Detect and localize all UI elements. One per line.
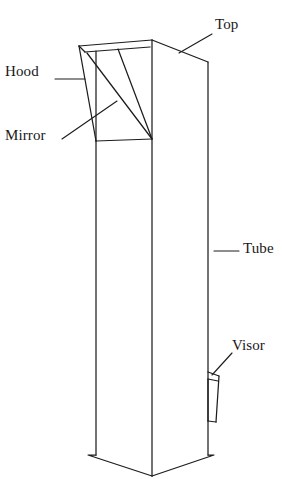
periscope-diagram: Top Hood Mirror Tube Visor (0, 0, 282, 479)
leader-line-top (179, 34, 212, 53)
visor-bottom-edge (208, 421, 216, 422)
tube-group (88, 40, 214, 476)
hood-ridge-outer (79, 40, 152, 46)
hood-bottom-edge (96, 139, 152, 141)
label-mirror: Mirror (5, 128, 46, 143)
leader-lines-group (55, 34, 239, 375)
top-face-slope (152, 40, 208, 62)
visor-right-edge (216, 376, 219, 422)
hood-ridge-inner (85, 47, 150, 52)
label-visor: Visor (232, 338, 265, 353)
visor-inner-top (208, 379, 218, 381)
label-top: Top (215, 17, 238, 32)
mirror-diagonal-long (87, 53, 152, 139)
visor-group (208, 372, 219, 422)
label-hood: Hood (5, 64, 39, 79)
hood-left-slant (79, 46, 96, 141)
tube-bottom-left-face (88, 455, 152, 476)
label-tube: Tube (243, 241, 274, 256)
mirror-group (87, 49, 152, 139)
top-face-group (152, 40, 208, 62)
diagram-canvas (0, 0, 282, 479)
mirror-diagonal-right (118, 49, 152, 139)
leader-line-visor (212, 353, 232, 375)
tube-bottom-right-face (152, 455, 214, 476)
